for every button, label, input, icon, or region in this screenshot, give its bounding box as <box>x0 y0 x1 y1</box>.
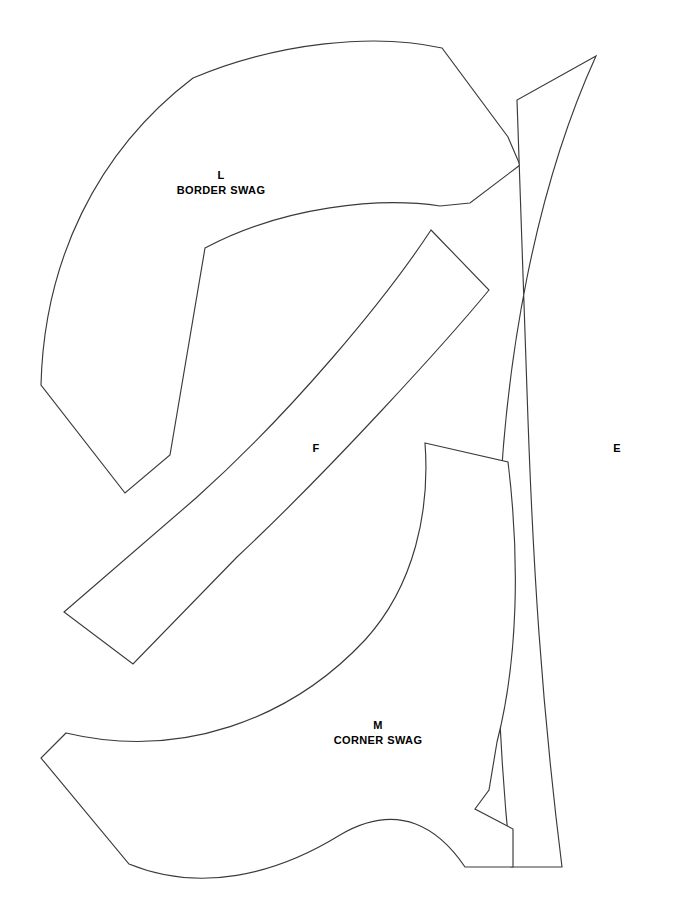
piece-name-m: CORNER SWAG <box>334 733 423 748</box>
pattern-sheet: L BORDER SWAG F E M CORNER SWAG <box>0 0 699 918</box>
pattern-pieces-canvas <box>0 0 699 918</box>
piece-code-m: M <box>334 718 423 733</box>
pattern-label-f: F <box>312 441 319 456</box>
piece-name-l: BORDER SWAG <box>177 183 266 198</box>
pattern-piece-e-outline[interactable] <box>497 56 596 867</box>
pattern-label-m: M CORNER SWAG <box>334 718 423 748</box>
piece-code-f: F <box>312 441 319 456</box>
pattern-label-l: L BORDER SWAG <box>177 168 266 198</box>
pattern-label-e: E <box>613 441 621 456</box>
piece-code-l: L <box>177 168 266 183</box>
piece-code-e: E <box>613 441 621 456</box>
